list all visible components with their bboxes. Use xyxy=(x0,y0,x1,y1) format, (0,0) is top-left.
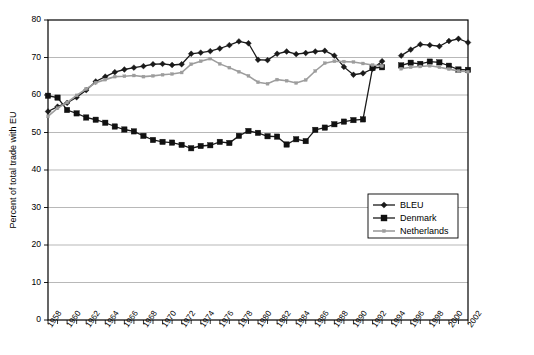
data-point-marker xyxy=(226,42,232,48)
data-point-marker xyxy=(419,65,422,68)
series-line-bleu xyxy=(48,41,382,111)
y-tick-label: 40 xyxy=(31,164,41,174)
data-point-marker xyxy=(198,50,204,56)
data-point-marker xyxy=(274,134,279,139)
y-tick-label: 20 xyxy=(31,239,41,249)
trade-share-line-chart: 01020304050607080 1958196019621964196619… xyxy=(0,0,534,355)
x-tick-label: 1974 xyxy=(198,309,216,329)
data-point-marker xyxy=(323,62,326,65)
chart-legend: BLEUDenmarkNetherlands xyxy=(368,194,458,238)
data-point-marker xyxy=(131,65,137,71)
data-point-marker xyxy=(447,68,450,71)
data-point-marker xyxy=(362,62,365,65)
data-point-marker xyxy=(45,109,51,115)
data-point-marker xyxy=(112,69,118,75)
data-point-marker xyxy=(293,137,298,142)
data-point-marker xyxy=(131,129,136,134)
data-point-marker xyxy=(427,42,433,48)
data-point-marker xyxy=(417,41,423,47)
data-point-marker xyxy=(190,63,193,66)
data-point-marker xyxy=(342,60,345,63)
data-point-marker xyxy=(47,115,50,118)
data-point-marker xyxy=(150,61,156,67)
data-point-marker xyxy=(208,143,213,148)
data-point-marker xyxy=(55,95,60,100)
y-axis-title: Percent of total trade with EU xyxy=(8,111,18,228)
x-tick-label: 1992 xyxy=(370,309,388,329)
data-point-marker xyxy=(303,50,309,56)
legend-swatch-square-icon xyxy=(381,215,387,221)
data-point-marker xyxy=(257,81,260,84)
data-point-marker xyxy=(352,61,355,64)
x-tick-label: 1986 xyxy=(313,309,331,329)
data-point-marker xyxy=(322,48,328,54)
x-tick-label: 1998 xyxy=(428,309,446,329)
series-line-netherlands xyxy=(48,59,382,117)
data-point-marker xyxy=(246,40,252,46)
data-point-marker xyxy=(304,79,307,82)
data-point-marker xyxy=(171,73,174,76)
data-point-marker xyxy=(236,133,241,138)
y-axis-ticks: 01020304050607080 xyxy=(31,14,48,324)
data-point-marker xyxy=(437,60,442,65)
x-tick-label: 1994 xyxy=(389,309,407,329)
data-point-marker xyxy=(152,74,155,77)
data-point-marker xyxy=(246,128,251,133)
legend-label-netherlands: Netherlands xyxy=(400,226,449,236)
data-point-marker xyxy=(438,66,441,69)
data-point-marker xyxy=(123,75,126,78)
data-point-marker xyxy=(160,139,165,144)
data-point-marker xyxy=(85,88,88,91)
data-point-marker xyxy=(121,67,127,73)
data-point-marker xyxy=(360,117,365,122)
data-point-marker xyxy=(150,137,155,142)
data-point-marker xyxy=(371,64,374,67)
y-tick-label: 60 xyxy=(31,89,41,99)
y-tick-label: 10 xyxy=(31,277,41,287)
data-point-marker xyxy=(217,139,222,144)
data-point-marker xyxy=(266,82,269,85)
data-point-marker xyxy=(56,107,59,110)
x-tick-label: 1980 xyxy=(256,309,274,329)
data-point-marker xyxy=(351,117,356,122)
x-tick-label: 2000 xyxy=(447,309,465,329)
data-point-marker xyxy=(209,57,212,60)
x-tick-label: 1968 xyxy=(141,309,159,329)
y-tick-label: 0 xyxy=(36,314,41,324)
data-point-marker xyxy=(400,67,403,70)
x-tick-label: 1964 xyxy=(103,309,121,329)
x-tick-label: 1970 xyxy=(160,309,178,329)
data-point-marker xyxy=(94,81,97,84)
data-point-marker xyxy=(236,38,242,44)
data-point-marker xyxy=(93,117,98,122)
data-point-marker xyxy=(465,40,471,46)
x-tick-label: 1996 xyxy=(408,309,426,329)
data-point-marker xyxy=(160,61,166,67)
data-point-marker xyxy=(467,70,470,73)
x-tick-label: 1978 xyxy=(237,309,255,329)
data-point-marker xyxy=(198,143,203,148)
data-point-marker xyxy=(303,138,308,143)
data-point-marker xyxy=(66,101,69,104)
x-tick-label: 1988 xyxy=(332,309,350,329)
x-tick-label: 1976 xyxy=(218,309,236,329)
data-point-marker xyxy=(312,49,318,55)
data-point-marker xyxy=(284,142,289,147)
legend-swatch-gray-icon xyxy=(382,229,385,232)
chart-container: 01020304050607080 1958196019621964196619… xyxy=(0,0,534,355)
data-point-marker xyxy=(112,124,117,129)
data-point-marker xyxy=(436,43,442,49)
data-point-marker xyxy=(83,115,88,120)
data-point-marker xyxy=(104,78,107,81)
data-point-marker xyxy=(199,60,202,63)
data-point-marker xyxy=(457,70,460,73)
data-point-marker xyxy=(207,48,213,54)
data-point-marker xyxy=(255,130,260,135)
data-point-marker xyxy=(218,62,221,65)
x-tick-label: 1966 xyxy=(122,309,140,329)
data-point-marker xyxy=(188,146,193,151)
data-point-marker xyxy=(332,122,337,127)
x-tick-label: 1984 xyxy=(294,309,312,329)
data-point-marker xyxy=(132,74,135,77)
legend-label-bleu: BLEU xyxy=(400,200,424,210)
